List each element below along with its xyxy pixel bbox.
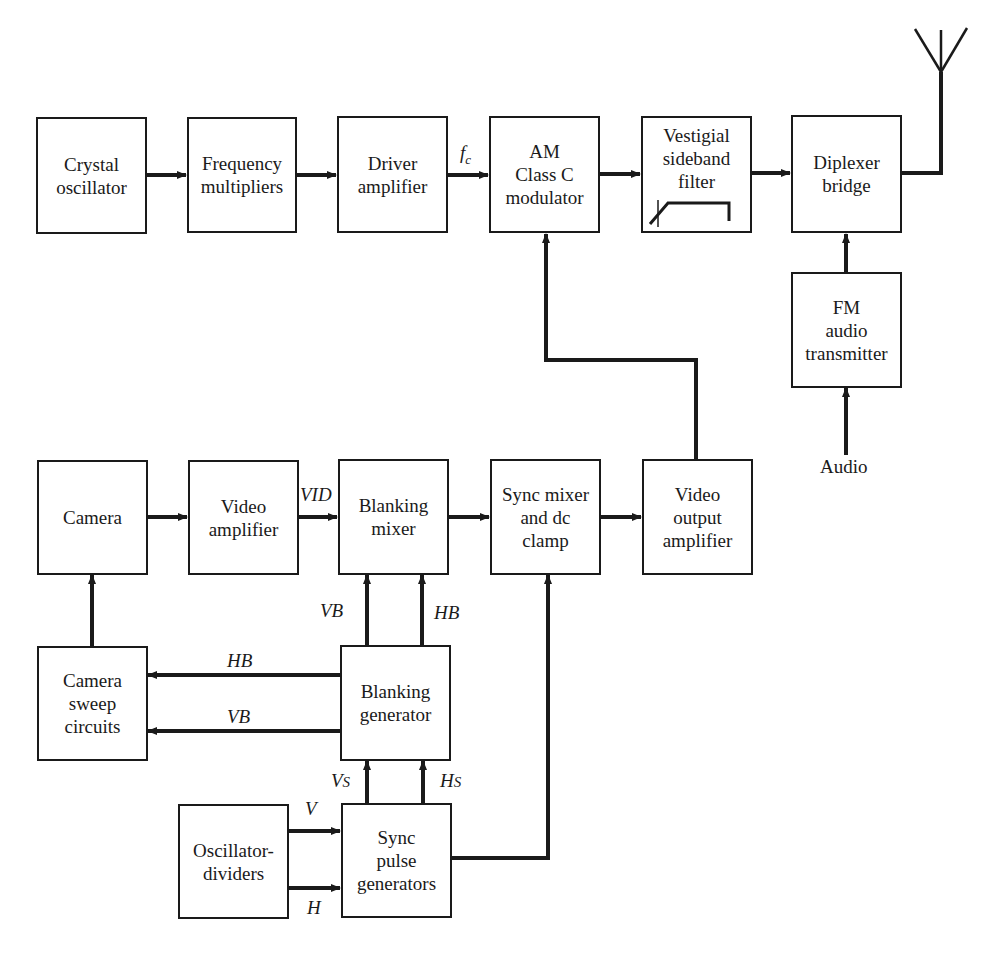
wire-diplexer-to-antenna <box>902 72 941 173</box>
block-vestigial-sideband-filter: Vestigial sideband filter <box>641 116 752 233</box>
label-audio-input: Audio <box>820 456 868 478</box>
block-label: dividers <box>203 862 264 885</box>
block-driver-amplifier: Driver amplifier <box>337 116 448 233</box>
block-label: sweep <box>69 692 116 715</box>
block-label: Video <box>221 495 266 518</box>
label-hs: HS <box>440 770 461 792</box>
label-hb-left: HB <box>227 650 252 672</box>
block-label: Sync mixer <box>502 483 589 506</box>
block-label: Driver <box>368 152 418 175</box>
block-label: output <box>673 506 722 529</box>
label-vs: VS <box>331 770 350 792</box>
label-vb-left: VB <box>227 706 250 728</box>
block-blanking-mixer: Blanking mixer <box>338 459 449 575</box>
label-fc: fc <box>460 142 471 168</box>
block-diplexer-bridge: Diplexer bridge <box>791 115 902 233</box>
block-label: generators <box>357 872 436 895</box>
label-subscript: S <box>343 774 351 790</box>
label-text: V <box>331 770 343 791</box>
block-label: Diplexer <box>813 151 879 174</box>
block-label: mixer <box>371 517 415 540</box>
block-label: circuits <box>65 715 121 738</box>
block-label: and dc <box>520 506 570 529</box>
block-blanking-generator: Blanking generator <box>340 645 451 761</box>
block-label: Class C <box>515 163 574 186</box>
block-label: clamp <box>522 529 568 552</box>
label-subscript: S <box>454 774 462 790</box>
block-label: audio <box>825 319 867 342</box>
block-label: multipliers <box>201 175 283 198</box>
label-vb-up: VB <box>320 600 343 622</box>
block-label: Sync <box>378 826 416 849</box>
label-hb-up: HB <box>434 602 459 624</box>
label-subscript: c <box>465 152 471 167</box>
block-label: Oscillator- <box>193 839 274 862</box>
block-label: bridge <box>822 174 871 197</box>
block-label: sideband <box>663 147 731 170</box>
block-label: Blanking <box>359 494 429 517</box>
label-text: H <box>440 770 454 791</box>
block-label: Vestigial <box>663 124 730 147</box>
label-v: V <box>305 798 317 820</box>
block-video-amplifier: Video amplifier <box>188 460 299 575</box>
block-label: Video <box>675 483 720 506</box>
block-sync-pulse-generators: Sync pulse generators <box>341 803 452 918</box>
arrow-videoout-to-am <box>546 234 696 460</box>
block-sync-mixer-dc-clamp: Sync mixer and dc clamp <box>490 459 601 575</box>
label-vid: VID <box>300 484 332 506</box>
block-label: oscillator <box>56 176 127 199</box>
arrow-syncpulse-to-syncmixer <box>452 575 548 858</box>
block-fm-audio-transmitter: FM audio transmitter <box>791 272 902 388</box>
block-label: modulator <box>505 186 583 209</box>
block-label: transmitter <box>805 342 887 365</box>
block-camera: Camera <box>37 460 148 575</box>
block-label: filter <box>678 170 715 193</box>
block-camera-sweep-circuits: Camera sweep circuits <box>37 646 148 761</box>
block-label: AM <box>529 140 560 163</box>
block-label: Blanking <box>361 680 431 703</box>
block-video-output-amplifier: Video output amplifier <box>642 459 753 575</box>
antenna-icon <box>915 28 967 72</box>
block-label: FM <box>833 296 860 319</box>
block-am-class-c-modulator: AM Class C modulator <box>489 116 600 233</box>
block-label: Camera <box>63 669 122 692</box>
block-label: amplifier <box>663 529 733 552</box>
block-label: generator <box>360 703 432 726</box>
block-label: Frequency <box>202 152 282 175</box>
block-label: pulse <box>376 849 416 872</box>
block-crystal-oscillator: Crystal oscillator <box>36 117 147 234</box>
block-label: Camera <box>63 506 122 529</box>
block-label: amplifier <box>209 518 279 541</box>
block-frequency-multipliers: Frequency multipliers <box>187 117 297 233</box>
label-h: H <box>307 897 321 919</box>
block-oscillator-dividers: Oscillator- dividers <box>178 804 289 919</box>
block-label: amplifier <box>358 175 428 198</box>
block-label: Crystal <box>64 153 119 176</box>
